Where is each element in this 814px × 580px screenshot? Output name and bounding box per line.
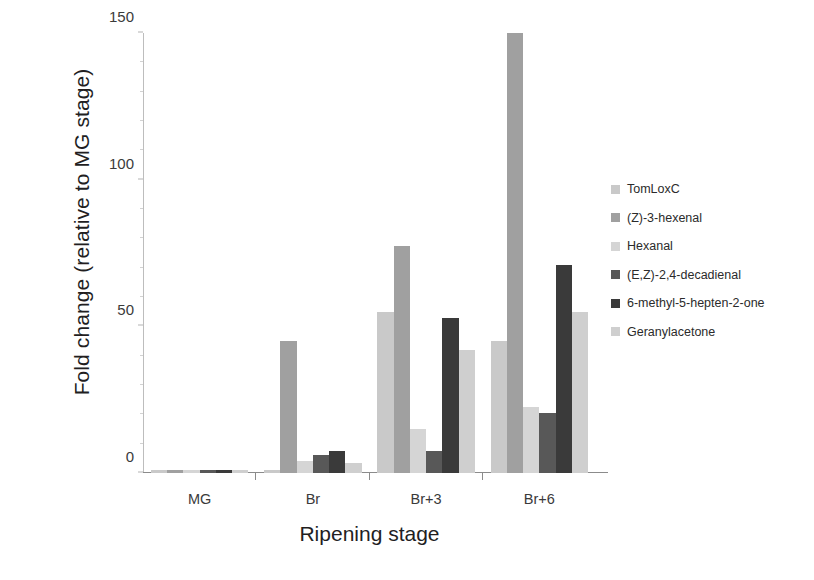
x-axis-category-label: Br+6 [483,491,596,507]
y-axis-tick-label: 50 [117,301,143,318]
x-axis-category-label: Br+3 [370,491,483,507]
bar-groups: MGBrBr+3Br+6 [143,33,596,473]
bar-group: Br+6 [483,33,596,473]
legend-swatch-icon [611,327,620,336]
legend-label: TomLoxC [627,182,680,196]
legend-swatch-icon [611,242,620,251]
legend-label: Geranylacetone [627,325,715,339]
legend-swatch-icon [611,185,620,194]
y-axis-title: Fold change (relative to MG stage) [70,2,94,462]
bar[interactable] [151,470,167,473]
bar[interactable] [523,407,539,473]
bar[interactable] [426,451,442,473]
legend-label: (E,Z)-2,4-decadienal [627,268,741,282]
bar[interactable] [345,463,361,473]
legend-item[interactable]: Geranylacetone [611,318,811,347]
bar-group: MG [143,33,256,473]
x-axis-category-label: Br [256,491,369,507]
bar[interactable] [507,33,523,473]
bar[interactable] [572,312,588,473]
legend-label: 6-methyl-5-hepten-2-one [627,296,765,310]
bar[interactable] [200,470,216,473]
x-axis-category-label: MG [143,491,256,507]
group-separator-tick [369,473,370,480]
y-axis-tick-label: 150 [109,8,143,25]
legend-item[interactable]: 6-methyl-5-hepten-2-one [611,289,811,318]
bar[interactable] [442,318,458,473]
bar[interactable] [167,470,183,473]
bar[interactable] [377,312,393,473]
bar[interactable] [329,451,345,473]
legend-swatch-icon [611,299,620,308]
plot-area: 050100150 MGBrBr+3Br+6 [143,33,596,473]
bar-group: Br [256,33,369,473]
bar[interactable] [216,470,232,473]
bar-set [491,33,588,473]
chart-figure: Fold change (relative to MG stage) 05010… [0,0,814,580]
legend-label: (Z)-3-hexenal [627,211,702,225]
y-axis-tick-label: 100 [109,154,143,171]
bar[interactable] [183,470,199,473]
legend-item[interactable]: (Z)-3-hexenal [611,204,811,233]
group-separator-tick [482,473,483,480]
group-separator-tick [255,473,256,480]
bar[interactable] [410,429,426,473]
bar[interactable] [459,350,475,473]
bar-set [377,33,474,473]
bar[interactable] [539,413,555,473]
bar[interactable] [280,341,296,473]
x-axis-title: Ripening stage [143,522,596,546]
bar[interactable] [232,470,248,473]
legend-item[interactable]: TomLoxC [611,175,811,204]
bar[interactable] [313,455,329,473]
bar-set [264,33,361,473]
bar-group: Br+3 [370,33,483,473]
legend-label: Hexanal [627,239,673,253]
legend-item[interactable]: Hexanal [611,232,811,261]
legend-swatch-icon [611,213,620,222]
legend-item[interactable]: (E,Z)-2,4-decadienal [611,261,811,290]
bar[interactable] [556,265,572,473]
bar[interactable] [264,470,280,473]
legend-swatch-icon [611,270,620,279]
y-axis-tick-label: 0 [126,448,143,465]
bar[interactable] [491,341,507,473]
bar[interactable] [297,461,313,473]
chart-legend: TomLoxC(Z)-3-hexenalHexanal(E,Z)-2,4-dec… [611,175,811,346]
bar[interactable] [394,246,410,473]
bar-set [151,33,248,473]
